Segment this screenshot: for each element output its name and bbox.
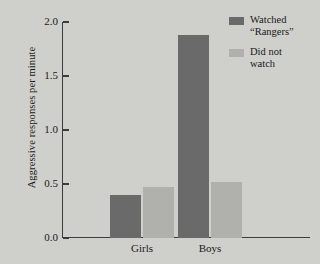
legend-label-0: Watched “Rangers”: [250, 14, 294, 37]
bar-chart: Aggressive responses per minute 0.00.51.…: [0, 0, 320, 264]
legend: Watched “Rangers”Did not watch: [229, 14, 320, 78]
bar-girls-did-not-watch: [143, 187, 174, 238]
y-tick-label-1: 0.5: [18, 178, 58, 189]
y-tick-label-4: 2.0: [18, 16, 58, 27]
y-tick-label-2: 1.0: [18, 124, 58, 135]
legend-item-1: Did not watch: [229, 46, 320, 69]
legend-label-1: Did not watch: [250, 46, 282, 69]
x-label-boys: Boys: [170, 242, 250, 254]
legend-swatch-0: [229, 17, 244, 25]
y-axis-title: Aggressive responses per minute: [26, 13, 37, 223]
legend-swatch-1: [229, 49, 244, 57]
y-tick-label-3: 1.5: [18, 70, 58, 81]
bar-boys-watched: [178, 35, 209, 238]
bar-girls-watched: [110, 195, 141, 238]
legend-item-0: Watched “Rangers”: [229, 14, 320, 37]
y-tick-label-0: 0.0: [18, 232, 58, 243]
bar-boys-did-not-watch: [211, 182, 242, 238]
